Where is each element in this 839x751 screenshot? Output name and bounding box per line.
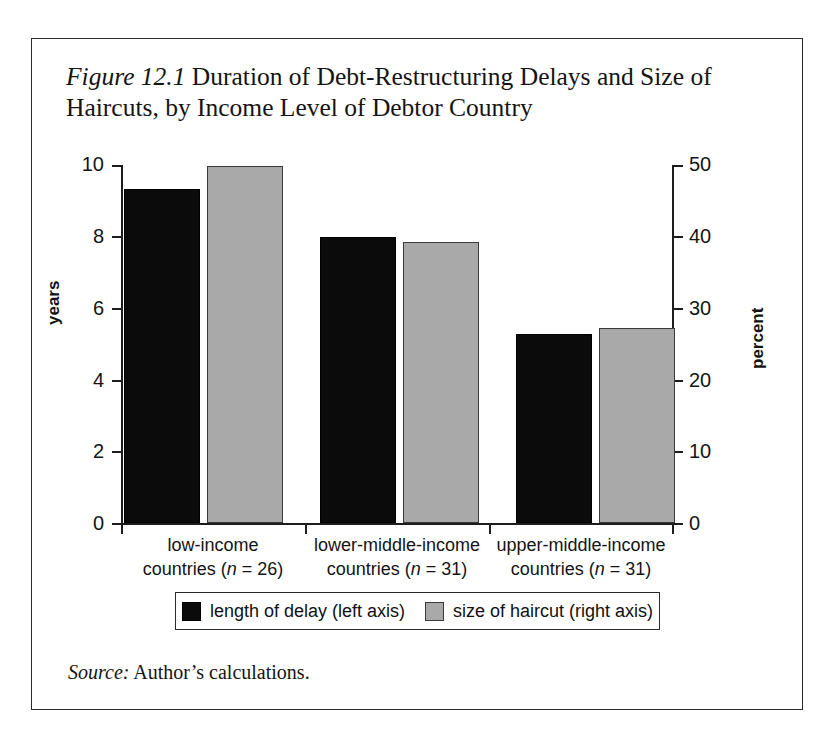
source-label: Source: (68, 661, 129, 683)
y-axis-right-tick (674, 165, 683, 167)
y-axis-left-tick-label: 10 (64, 153, 104, 176)
category-label-line1: upper-middle-income (489, 533, 673, 557)
y-axis-left-tick (112, 380, 121, 382)
y-axis-right-tick (674, 380, 683, 382)
y-axis-right-title: percent (748, 308, 768, 369)
x-axis-category-label: lower-middle-income countries (n = 31) (305, 533, 489, 582)
y-axis-right-tick (674, 523, 683, 525)
bar-delay-upper-middle-income[interactable] (516, 334, 592, 523)
y-axis-left-tick (112, 451, 121, 453)
y-axis-left-tick (112, 236, 121, 238)
legend-label: length of delay (left axis) (210, 601, 405, 622)
y-axis-left-tick (112, 523, 121, 525)
y-axis-right-tick-label: 30 (689, 297, 733, 320)
legend-swatch-gray-square-icon (425, 602, 444, 621)
category-label-line2: countries (n = 26) (121, 557, 305, 581)
y-axis-right-tick (674, 451, 683, 453)
legend-item-haircut[interactable]: size of haircut (right axis) (425, 601, 653, 622)
bar-haircut-low-income[interactable] (207, 166, 283, 523)
category-label-line2: countries (n = 31) (305, 557, 489, 581)
y-axis-left-tick-label: 0 (64, 512, 104, 535)
y-axis-right-tick-label: 10 (689, 440, 733, 463)
y-axis-left-title: years (44, 281, 64, 325)
bars-layer (121, 165, 674, 523)
source-note: Source: Author’s calculations. (68, 661, 310, 684)
chart-plot-area: years percent 10 8 6 4 2 0 50 40 30 20 1… (32, 39, 804, 711)
bar-haircut-upper-middle-income[interactable] (599, 328, 675, 523)
y-axis-right-tick (674, 236, 683, 238)
y-axis-left-tick (112, 308, 121, 310)
y-axis-left-tick-label: 2 (64, 440, 104, 463)
y-axis-right-tick (674, 308, 683, 310)
legend-item-delay[interactable]: length of delay (left axis) (182, 601, 405, 622)
y-axis-right-tick-label: 20 (689, 369, 733, 392)
bar-delay-low-income[interactable] (124, 189, 200, 523)
bar-haircut-lower-middle-income[interactable] (403, 242, 479, 523)
category-label-line2: countries (n = 31) (489, 557, 673, 581)
y-axis-right-tick-label: 40 (689, 225, 733, 248)
chart-legend: length of delay (left axis) size of hair… (175, 592, 660, 630)
y-axis-right-tick-label: 50 (689, 153, 733, 176)
source-text: Author’s calculations. (129, 661, 309, 683)
y-axis-left-tick-label: 4 (64, 369, 104, 392)
category-label-line1: lower-middle-income (305, 533, 489, 557)
y-axis-left-tick-label: 8 (64, 225, 104, 248)
legend-swatch-black-square-icon (182, 602, 201, 621)
x-axis-category-label: upper-middle-income countries (n = 31) (489, 533, 673, 582)
y-axis-left-tick (112, 165, 121, 167)
bar-delay-lower-middle-income[interactable] (320, 237, 396, 523)
figure-frame: Figure 12.1 Duration of Debt-Restructuri… (31, 38, 803, 710)
legend-label: size of haircut (right axis) (453, 601, 653, 622)
category-label-line1: low-income (121, 533, 305, 557)
y-axis-left-tick-label: 6 (64, 297, 104, 320)
x-axis-line (121, 523, 674, 525)
y-axis-right-tick-label: 0 (689, 512, 733, 535)
x-axis-category-label: low-income countries (n = 26) (121, 533, 305, 582)
page-header-remnant (540, 0, 839, 14)
